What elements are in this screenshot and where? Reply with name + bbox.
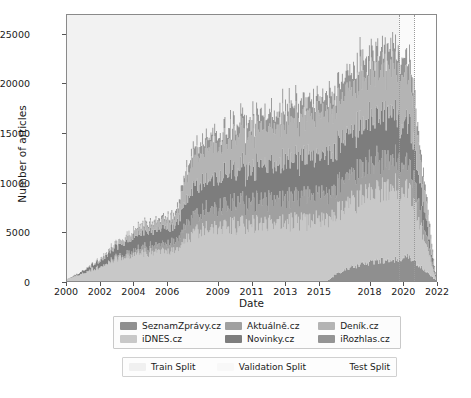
split-legend-label: Test Split [349, 362, 390, 372]
x-axis-tick-mark [319, 282, 320, 286]
x-axis-tick-label: 2004 [121, 286, 145, 297]
legend-label: Novinky.cz [247, 334, 294, 344]
x-axis-tick-mark [133, 282, 134, 286]
x-axis-tick-label: 2006 [155, 286, 179, 297]
x-axis-tick-label: 2015 [307, 286, 331, 297]
legend-swatch-icon [318, 335, 335, 343]
legend-entry-aktu-ln-cz[interactable]: Aktuálně.cz [225, 321, 314, 331]
x-axis-tick-label: 2009 [206, 286, 230, 297]
x-axis-tick-mark [437, 282, 438, 286]
split-legend-entry-validation-split[interactable]: Validation Split [217, 362, 306, 372]
x-axis-tick-mark [218, 282, 219, 286]
legend-swatch-icon [120, 322, 137, 330]
y-axis-tick-mark [62, 232, 66, 233]
chart-root: 0500010000150002000025000 20002002200420… [0, 0, 471, 398]
legend-swatch-icon [225, 335, 242, 343]
x-axis-tick-label: 2011 [239, 286, 263, 297]
x-axis-tick-mark [370, 282, 371, 286]
x-axis-tick-label: 2022 [425, 286, 449, 297]
x-axis-tick-mark [167, 282, 168, 286]
split-divider-line [399, 15, 400, 281]
legend-entry-novinky-cz[interactable]: Novinky.cz [225, 334, 314, 344]
x-axis-tick-mark [285, 282, 286, 286]
legend-entry-seznamzpr-vy-cz[interactable]: SeznamZprávy.cz [120, 321, 221, 331]
split-legend-label: Train Split [151, 362, 195, 372]
legend-label: iRozhlas.cz [340, 334, 390, 344]
legend-label: Deník.cz [340, 321, 378, 331]
split-legend-swatch-icon [217, 363, 234, 371]
x-axis-tick-label: 2002 [88, 286, 112, 297]
x-axis-tick-label: 2020 [391, 286, 415, 297]
legend-entry-idnes-cz[interactable]: iDNES.cz [120, 334, 221, 344]
legend-label: iDNES.cz [142, 334, 182, 344]
split-legend: Train SplitValidation SplitTest Split [122, 357, 397, 377]
x-axis-tick-label: 2013 [273, 286, 297, 297]
stacked-area-svg [67, 15, 436, 281]
split-legend-swatch-icon [327, 363, 344, 371]
series-legend: SeznamZprávy.czAktuálně.czDeník.cziDNES.… [113, 316, 401, 349]
legend-entry-irozhlas-cz[interactable]: iRozhlas.cz [318, 334, 394, 344]
x-axis-label: Date [66, 297, 437, 309]
y-axis-tick-mark [62, 133, 66, 134]
legend-swatch-icon [120, 335, 137, 343]
y-axis-tick-mark [62, 83, 66, 84]
split-legend-entry-train-split[interactable]: Train Split [129, 362, 195, 372]
split-divider-line [414, 15, 415, 281]
x-axis-tick-label: 2000 [54, 286, 78, 297]
x-axis-tick-mark [403, 282, 404, 286]
split-legend-row: Train SplitValidation SplitTest Split [129, 362, 390, 372]
legend-swatch-icon [225, 322, 242, 330]
legend-swatch-icon [318, 322, 335, 330]
y-axis-tick-label: 0 [0, 277, 30, 288]
stacked-area-series [67, 15, 436, 281]
legend-label: Aktuálně.cz [247, 321, 299, 331]
legend-entry-den-k-cz[interactable]: Deník.cz [318, 321, 394, 331]
x-axis-tick-label: 2018 [357, 286, 381, 297]
split-legend-label: Validation Split [239, 362, 306, 372]
y-axis-tick-mark [62, 183, 66, 184]
legend-label: SeznamZprávy.cz [142, 321, 221, 331]
x-axis-tick-mark [100, 282, 101, 286]
split-legend-entry-test-split[interactable]: Test Split [327, 362, 390, 372]
y-axis-label: Number of articles [16, 79, 28, 229]
split-legend-swatch-icon [129, 363, 146, 371]
series-legend-grid: SeznamZprávy.czAktuálně.czDeník.cziDNES.… [120, 321, 394, 344]
x-axis-tick-mark [252, 282, 253, 286]
y-axis-tick-label: 25000 [0, 28, 30, 39]
x-axis-tick-mark [66, 282, 67, 286]
plot-area [66, 14, 437, 282]
y-axis-tick-mark [62, 34, 66, 35]
